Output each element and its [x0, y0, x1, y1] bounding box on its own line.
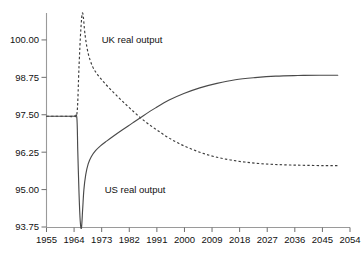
y-tick-label: 95.00	[15, 184, 39, 195]
x-tick-label: 2054	[339, 234, 360, 245]
chart-plot: 93.7595.0096.2597.5098.75100.00 19551964…	[0, 0, 363, 257]
x-tick-label: 2018	[229, 234, 250, 245]
series-line-uk-real-output	[47, 13, 338, 166]
chart-container: 93.7595.0096.2597.5098.75100.00 19551964…	[0, 0, 363, 257]
y-tick-label: 96.25	[15, 147, 39, 158]
x-tick-label: 2000	[174, 234, 195, 245]
series-annotation-2: US real output	[105, 184, 166, 195]
x-tick-label: 1964	[64, 234, 85, 245]
x-axis-ticks: 1955196419731982199120002009201820272036…	[36, 228, 361, 246]
y-tick-label: 100.00	[10, 34, 39, 45]
x-tick-label: 1991	[146, 234, 167, 245]
series-line-us-real-output	[47, 75, 338, 228]
chart-series-group	[47, 13, 338, 229]
x-tick-label: 2009	[201, 234, 222, 245]
y-tick-label: 97.50	[15, 109, 39, 120]
y-tick-label: 93.75	[15, 221, 39, 232]
x-tick-label: 2027	[257, 234, 278, 245]
chart-annotations: UK real outputUS real output	[102, 34, 166, 195]
series-annotation-1: UK real output	[102, 34, 163, 45]
x-tick-label: 1982	[119, 234, 140, 245]
x-tick-label: 2036	[284, 234, 305, 245]
chart-axes	[47, 13, 351, 228]
x-tick-label: 2045	[312, 234, 333, 245]
y-axis-ticks: 93.7595.0096.2597.5098.75100.00	[10, 34, 47, 232]
x-tick-label: 1955	[36, 234, 57, 245]
y-tick-label: 98.75	[15, 72, 39, 83]
x-tick-label: 1973	[91, 234, 112, 245]
